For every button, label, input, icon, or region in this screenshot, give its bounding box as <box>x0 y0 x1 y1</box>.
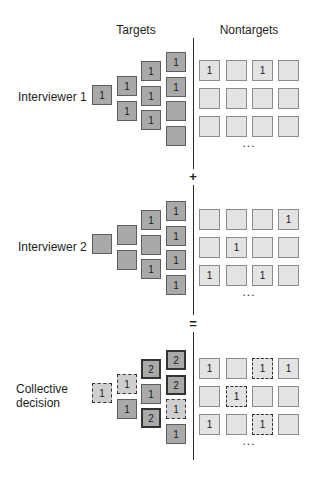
target-cell: 2 <box>166 375 186 395</box>
nontarget-cell: 1 <box>252 414 273 435</box>
target-cell: 1 <box>141 384 161 404</box>
nontarget-cell: 1 <box>199 414 220 435</box>
nontarget-cell: 1 <box>252 358 273 379</box>
more-rows-ellipsis: ... <box>242 434 255 448</box>
target-cell: 2 <box>166 350 186 370</box>
nontarget-cell <box>278 386 299 407</box>
nontarget-cell: 1 <box>226 386 247 407</box>
target-cell: 1 <box>92 383 112 403</box>
nontarget-cell: 1 <box>278 358 299 379</box>
nontarget-cell <box>226 414 247 435</box>
nontarget-cell <box>199 386 220 407</box>
target-cell: 1 <box>117 399 137 419</box>
section-collective-decision: Collectivedecision1112122211111111... <box>0 0 317 477</box>
nontarget-cell <box>278 414 299 435</box>
target-cell: 1 <box>166 399 186 419</box>
target-cell: 1 <box>166 424 186 444</box>
nontarget-cell <box>226 358 247 379</box>
nontarget-cell <box>252 386 273 407</box>
target-cell: 2 <box>141 359 161 379</box>
target-cell: 2 <box>141 408 161 428</box>
row-label-line: Collective <box>16 382 68 396</box>
row-label-line: decision <box>16 396 68 410</box>
nontarget-cell: 1 <box>199 358 220 379</box>
row-label: Collectivedecision <box>16 382 68 410</box>
target-cell: 1 <box>117 374 137 394</box>
